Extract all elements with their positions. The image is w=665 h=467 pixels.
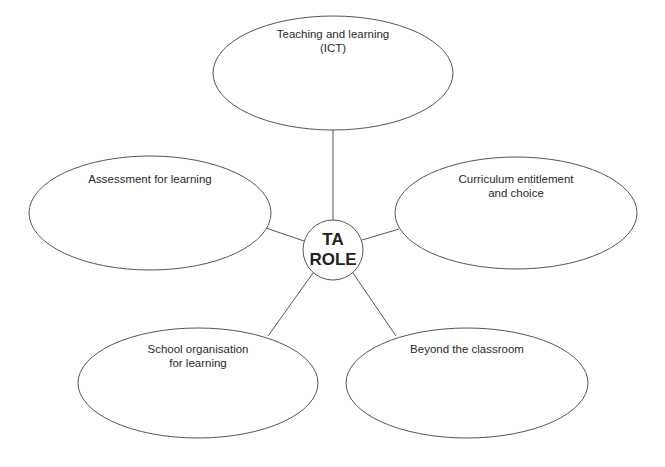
- node-label-left: Assessment for learning: [88, 172, 211, 186]
- node-label-top: Teaching and learning (ICT): [277, 27, 390, 55]
- ta-role-spider-diagram: Teaching and learning (ICT)Assessment fo…: [0, 0, 665, 467]
- connector-left: [266, 228, 304, 241]
- node-label-right: Curriculum entitlement and choice: [458, 172, 573, 200]
- connector-bottom-left: [268, 273, 313, 336]
- center-label: TA ROLE: [309, 230, 356, 270]
- connector-bottom-right: [353, 273, 396, 336]
- node-label-bottom-right: Beyond the classroom: [410, 342, 524, 356]
- node-label-bottom-left: School organisation for learning: [147, 342, 248, 370]
- connector-right: [362, 229, 399, 240]
